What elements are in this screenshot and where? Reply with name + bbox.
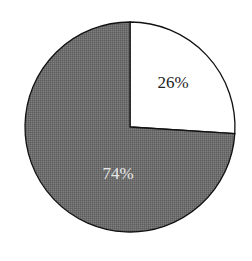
slice-label-74: 74% [102,164,133,183]
slice-label-26: 26% [157,73,188,92]
pie-slices [25,22,235,232]
pie-chart: 26% 74% [0,0,252,261]
